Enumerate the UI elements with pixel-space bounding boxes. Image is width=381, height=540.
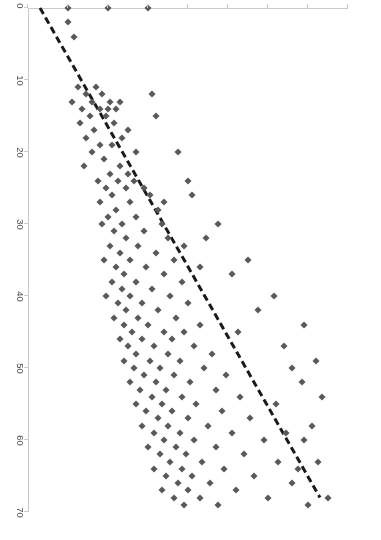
growth-tick [347,4,348,8]
quarters-tick-label: 10 [15,75,25,86]
growth-tick [147,4,148,8]
quarters-tick-label: 50 [15,363,25,374]
growth-tick [67,4,68,8]
quarters-tick-label: 40 [15,291,25,302]
quarters-tick-label: 60 [15,435,25,446]
growth-tick [267,4,268,8]
growth-tick [227,4,228,8]
quarters-tick-label: 20 [15,147,25,158]
rotated-chart-figure: -20%0%20%40%60%80%100%120%140% 010203040… [0,0,381,540]
growth-tick [187,4,188,8]
growth-tick [307,4,308,8]
quarters-tick-label: 30 [15,219,25,230]
quarters-tick-label: 70 [15,507,25,518]
growth-tick [107,4,108,8]
scatter-plot-area [28,8,348,512]
quarters-tick-label: 0 [15,3,25,8]
